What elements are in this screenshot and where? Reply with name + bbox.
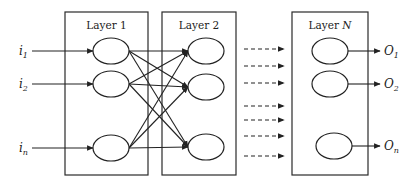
output-label: O2 (384, 77, 399, 93)
neuron-node (188, 38, 224, 64)
input-label: i2 (19, 77, 28, 93)
layer-label: Layer N (309, 19, 353, 31)
neuron-node (93, 71, 129, 97)
neuron-node (316, 133, 352, 159)
output-label: On (384, 139, 399, 155)
neural-network-diagram: Layer 1Layer 2Layer Ni1i2inO1O2On (0, 0, 414, 186)
layer-label: Layer 2 (179, 19, 219, 31)
connection-arrow (129, 147, 188, 148)
neuron-node (188, 74, 224, 100)
connection-arrow (129, 87, 188, 148)
connection-arrow (129, 84, 188, 147)
input-label: in (19, 141, 28, 157)
connection-arrow (129, 84, 188, 87)
neuron-node (188, 134, 224, 160)
neuron-node (93, 135, 129, 161)
layer-label: Layer 1 (86, 19, 126, 31)
neuron-node (312, 71, 348, 97)
input-label: i1 (19, 44, 28, 60)
output-label: O1 (384, 44, 399, 60)
neuron-node (312, 38, 348, 64)
neuron-node (93, 38, 129, 64)
